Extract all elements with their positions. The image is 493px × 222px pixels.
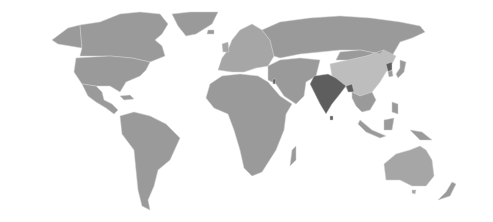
region-philippines (392, 102, 398, 114)
world-map (0, 0, 493, 222)
region-south-america (120, 112, 180, 210)
region-sri-lanka (330, 116, 333, 120)
region-new-zealand (438, 182, 456, 200)
region-caribbean (120, 95, 134, 100)
region-alaska (52, 25, 82, 48)
region-canada (80, 12, 168, 62)
region-uk (222, 42, 229, 52)
region-indonesia (358, 120, 386, 138)
region-japan (396, 60, 406, 78)
region-mexico-central-america (82, 84, 118, 114)
region-borneo (384, 118, 394, 130)
world-map-svg (0, 0, 493, 222)
region-new-guinea (410, 130, 432, 140)
region-tasmania (412, 190, 416, 194)
region-africa (206, 74, 292, 176)
region-australia (384, 146, 434, 186)
region-southeast-asia (352, 92, 376, 112)
region-madagascar (290, 146, 296, 166)
region-iceland (207, 30, 214, 34)
